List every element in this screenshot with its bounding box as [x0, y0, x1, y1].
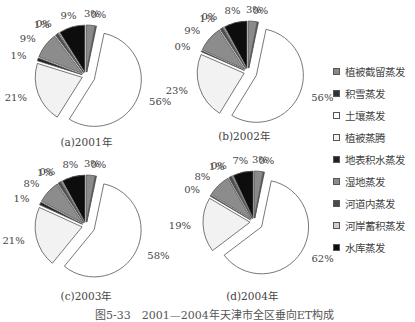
slice-percent-label: 0% [211, 160, 227, 171]
legend-swatch [333, 244, 340, 251]
slice-percent-label: 0% [201, 11, 217, 22]
legend-swatch [333, 156, 340, 163]
pie-chart-4: 3%0%62%19%0%8%1%0%7%(d)2004年 [169, 154, 334, 302]
slice-percent-label: 9% [20, 33, 36, 44]
legend-item-snow: 积雪蒸发 [333, 82, 415, 104]
panel-caption: (a)2001年 [60, 136, 111, 148]
slice-percent-label: 0% [258, 155, 274, 166]
slice-percent-label: 8% [62, 159, 78, 170]
pie-chart-1: 3%0%56%21%1%9%1%0%9%(a)2001年 [5, 8, 172, 148]
pie-slice [248, 21, 257, 68]
slice-percent-label: 21% [5, 92, 27, 103]
slice-percent-label: 0% [39, 166, 55, 177]
legend-item-in-channel: 河道内蒸发 [333, 192, 415, 214]
slice-percent-label: 58% [147, 250, 169, 261]
slice-percent-label: 56% [149, 96, 171, 107]
slice-percent-label: 62% [311, 253, 333, 264]
slice-percent-label: 21% [2, 235, 24, 246]
slice-percent-label: 0% [252, 5, 268, 16]
legend-swatch [333, 222, 340, 229]
legend-item-surface-ponding: 地表积水蒸发 [333, 148, 415, 170]
slice-percent-label: 8% [225, 5, 241, 16]
slice-percent-label: 0% [36, 18, 52, 29]
panel-caption: (d)2004年 [226, 290, 278, 302]
slice-percent-label: 9% [61, 10, 77, 21]
legend-item-wetland: 湿地蒸发 [333, 170, 415, 192]
pie-chart-3: 3%0%58%21%1%8%1%0%8%(c)2003年 [2, 158, 169, 302]
pie-slice [86, 25, 95, 72]
slice-percent-label: 56% [311, 92, 333, 103]
slice-percent-label: 9% [184, 25, 200, 36]
slice-percent-label: 0% [184, 184, 200, 195]
legend-swatch [333, 68, 340, 75]
legend: 植被截留蒸发 积雪蒸发 土壤蒸发 植被蒸腾 地表积水蒸发 湿地蒸发 河道内蒸发 … [333, 60, 415, 258]
pie-chart-2: 3%0%56%23%0%9%1%0%8%(b)2002年 [166, 4, 334, 142]
legend-item-transpiration: 植被蒸腾 [333, 126, 415, 148]
legend-swatch [333, 134, 340, 141]
legend-item-vegetation-interception: 植被截留蒸发 [333, 60, 415, 82]
figure-caption: 图5-33 2001—2004年天津市全区垂向ET构成 [95, 306, 334, 322]
slice-percent-label: 7% [232, 155, 248, 166]
panel-caption: (c)2003年 [61, 290, 112, 302]
slice-percent-label: 23% [166, 85, 188, 96]
panel-caption: (b)2002年 [218, 130, 270, 142]
legend-swatch [333, 178, 340, 185]
slice-percent-label: 1% [14, 193, 30, 204]
legend-item-soil: 土壤蒸发 [333, 104, 415, 126]
legend-swatch [333, 90, 340, 97]
slice-percent-label: 8% [194, 171, 210, 182]
legend-swatch [333, 200, 340, 207]
slice-percent-label: 0% [175, 41, 191, 52]
slice-percent-label: 0% [90, 159, 106, 170]
legend-item-riparian-storage: 河岸蓄积蒸发 [333, 214, 415, 236]
slice-percent-label: 19% [169, 220, 191, 231]
slice-percent-label: 8% [24, 178, 40, 189]
slice-percent-label: 0% [90, 9, 106, 20]
pie-slice [86, 175, 95, 222]
pie-slice [254, 171, 263, 218]
legend-swatch [333, 112, 340, 119]
legend-item-reservoir: 水库蒸发 [333, 236, 415, 258]
slice-percent-label: 1% [11, 50, 27, 61]
